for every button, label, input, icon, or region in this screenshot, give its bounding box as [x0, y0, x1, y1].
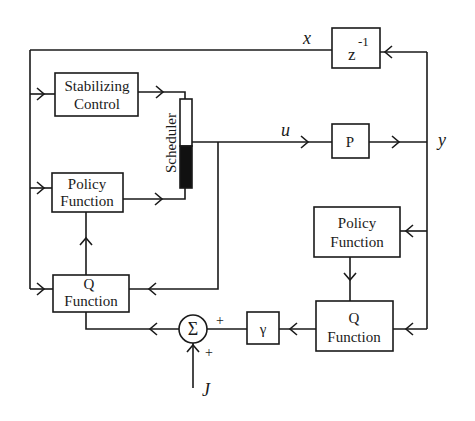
discount-label: γ — [259, 321, 267, 337]
policy-right-line2: Function — [330, 234, 384, 250]
signal-label-y: y — [436, 130, 446, 150]
signal-label-u: u — [281, 120, 290, 140]
scheduler-block: Scheduler — [163, 99, 192, 188]
stabilizing-control-line1: Stabilizing — [65, 78, 130, 94]
policy-function-right-block: Policy Function — [314, 207, 427, 301]
sum-sign-bottom: + — [205, 345, 213, 360]
sum-sign-top: + — [216, 313, 224, 328]
q-right-line1: Q — [349, 310, 360, 326]
q-left-line2: Function — [64, 293, 118, 309]
policy-function-left-block: Policy Function — [30, 173, 185, 212]
signal-label-x: x — [302, 28, 311, 48]
delay-block: z -1 — [332, 28, 380, 68]
sum-junction: Σ + + — [179, 313, 224, 388]
stabilizing-control-block: Stabilizing Control — [30, 73, 185, 116]
delay-exponent: -1 — [358, 34, 369, 49]
plant-label: P — [346, 134, 354, 150]
delay-base: z — [348, 45, 356, 64]
control-block-diagram: x z -1 Stabilizing Control Policy Functi… — [0, 0, 475, 421]
u-signal-path — [129, 136, 332, 295]
q-right-line2: Function — [327, 329, 381, 345]
q-function-left-block: Q Function — [30, 212, 179, 335]
scheduler-label: Scheduler — [163, 113, 179, 173]
q-function-right-block: Q Function — [316, 301, 427, 351]
policy-left-line2: Function — [60, 193, 114, 209]
plant-block: P — [332, 124, 427, 158]
q-left-line1: Q — [84, 276, 95, 292]
signal-label-J: J — [202, 380, 211, 400]
policy-right-line1: Policy — [338, 215, 377, 231]
sum-symbol: Σ — [188, 319, 198, 339]
policy-left-line1: Policy — [68, 176, 107, 192]
stabilizing-control-line2: Control — [74, 96, 120, 112]
